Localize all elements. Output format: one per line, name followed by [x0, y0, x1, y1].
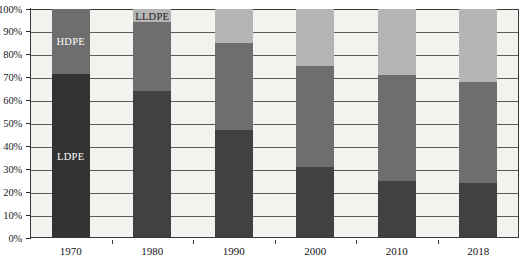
x-axis-tick-label: 2000	[304, 245, 326, 257]
y-axis: 0%10%20%30%40%50%60%70%80%90%100%	[0, 0, 30, 246]
bar-segment-hdpe[interactable]	[296, 66, 334, 167]
bar-group[interactable]	[459, 9, 497, 238]
bar-segment-ldpe[interactable]	[296, 167, 334, 238]
x-axis-tick-mark	[112, 240, 113, 244]
y-axis-tick-label: 10%	[3, 209, 22, 220]
stacked-bar-chart: 0%10%20%30%40%50%60%70%80%90%100% LDPEHD…	[0, 0, 530, 267]
bar-segment-hdpe[interactable]: HDPE	[52, 9, 90, 74]
bar-segment-ldpe[interactable]	[378, 181, 416, 237]
series-label-hdpe: HDPE	[56, 36, 85, 47]
x-axis-tick-label: 1990	[223, 245, 245, 257]
bars-layer: LDPEHDPELLDPE	[30, 9, 519, 238]
series-label-lldpe: LLDPE	[135, 11, 169, 22]
bar-segment-hdpe[interactable]	[378, 75, 416, 181]
y-axis-tick-label: 30%	[3, 163, 22, 174]
bar-segment-ldpe[interactable]: LDPE	[52, 74, 90, 238]
y-axis-tick-label: 80%	[3, 49, 22, 60]
x-axis: 197019801990200020102018	[30, 240, 519, 262]
x-axis-tick-mark	[193, 240, 194, 244]
y-axis-tick-label: 20%	[3, 186, 22, 197]
bar-segment-ldpe[interactable]	[215, 130, 253, 238]
bar-group[interactable]: LLDPE	[133, 9, 171, 238]
x-axis-tick-label: 1980	[141, 245, 163, 257]
bar-segment-lldpe[interactable]	[296, 9, 334, 66]
bar-group[interactable]	[296, 9, 334, 238]
y-axis-tick-label: 100%	[0, 3, 22, 14]
y-axis-tick-label: 60%	[3, 95, 22, 106]
bar-segment-ldpe[interactable]	[459, 183, 497, 238]
series-label-ldpe: LDPE	[57, 150, 84, 161]
x-axis-tick-label: 2018	[467, 245, 489, 257]
y-axis-tick-label: 90%	[3, 26, 22, 37]
bar-group[interactable]	[378, 9, 416, 238]
bar-group[interactable]: LDPEHDPE	[52, 9, 90, 238]
bar-segment-hdpe[interactable]	[459, 82, 497, 183]
x-axis-tick-mark	[438, 240, 439, 244]
bar-group[interactable]	[215, 9, 253, 238]
x-axis-tick-mark	[275, 240, 276, 244]
bar-segment-hdpe[interactable]	[215, 43, 253, 130]
y-axis-tick-label: 70%	[3, 72, 22, 83]
x-axis-tick-label: 1970	[60, 245, 82, 257]
y-axis-tick-label: 40%	[3, 140, 22, 151]
bar-segment-lldpe[interactable]	[215, 9, 253, 43]
bar-segment-hdpe[interactable]	[133, 22, 171, 91]
y-axis-tick-label: 50%	[3, 118, 22, 129]
bar-segment-lldpe[interactable]	[459, 9, 497, 82]
bar-segment-lldpe[interactable]: LLDPE	[133, 9, 171, 23]
x-axis-tick-label: 2010	[386, 245, 408, 257]
bar-segment-ldpe[interactable]	[133, 91, 171, 238]
bar-segment-lldpe[interactable]	[378, 9, 416, 75]
x-axis-line	[30, 237, 519, 238]
x-axis-tick-mark	[356, 240, 357, 244]
y-axis-tick-label: 0%	[8, 232, 22, 243]
